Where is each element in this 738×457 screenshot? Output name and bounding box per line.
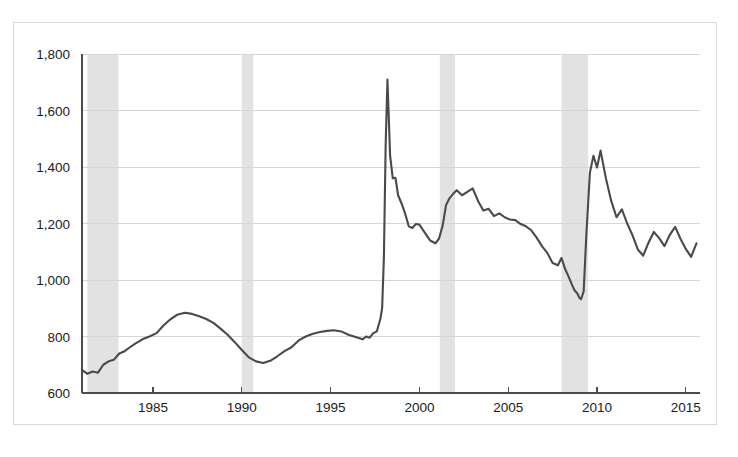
x-tick-label-2015: 2015: [671, 400, 701, 415]
series-line-1: [82, 79, 696, 373]
y-tick-label-1200: 1,200: [36, 217, 70, 232]
x-tick-label-1985: 1985: [138, 400, 168, 415]
series-group: [82, 79, 696, 373]
chart-figure: 6008001,0001,2001,4001,6001,800 19851990…: [0, 0, 738, 457]
line-chart-plot[interactable]: 6008001,0001,2001,4001,6001,800 19851990…: [0, 0, 738, 457]
y-tick-label-1600: 1,600: [36, 104, 70, 119]
y-tick-label-1000: 1,000: [36, 273, 70, 288]
y-tick-labels-group: 6008001,0001,2001,4001,6001,800: [36, 47, 70, 401]
x-tick-label-2010: 2010: [582, 400, 612, 415]
y-tick-label-1800: 1,800: [36, 47, 70, 62]
y-tick-label-600: 600: [47, 386, 70, 401]
y-tick-label-800: 800: [47, 330, 70, 345]
gridlines-group: [82, 54, 700, 337]
y-tick-label-1400: 1,400: [36, 160, 70, 175]
x-tick-label-1995: 1995: [316, 400, 346, 415]
x-tick-label-2000: 2000: [404, 400, 434, 415]
x-tick-label-1990: 1990: [227, 400, 257, 415]
x-tick-labels-group: 1985199019952000200520102015: [138, 400, 701, 415]
x-tick-label-2005: 2005: [493, 400, 523, 415]
